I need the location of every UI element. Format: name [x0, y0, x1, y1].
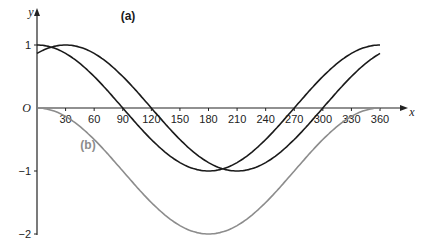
x-tick-label: 90: [117, 113, 129, 125]
x-axis-arrow-icon: [400, 105, 408, 111]
x-axis-label: x: [408, 105, 415, 119]
origin-label: O: [22, 101, 31, 115]
curve-b-label: (b): [80, 138, 95, 152]
y-tick-label: 1: [25, 39, 31, 51]
y-axis-label: y: [27, 5, 34, 19]
x-tick-label: 330: [342, 113, 360, 125]
trig-graph: xyO3060901201501802102402703003303601−1−…: [0, 0, 422, 252]
x-tick-label: 210: [228, 113, 246, 125]
x-tick-label: 360: [371, 113, 389, 125]
x-tick-label: 150: [171, 113, 189, 125]
x-tick-label: 180: [199, 113, 217, 125]
y-tick-label: −2: [18, 228, 31, 240]
curve-a-label: (a): [121, 9, 136, 23]
x-tick-label: 60: [88, 113, 100, 125]
y-axis-arrow-icon: [34, 8, 40, 16]
y-tick-label: −1: [18, 165, 31, 177]
x-tick-label: 240: [256, 113, 274, 125]
